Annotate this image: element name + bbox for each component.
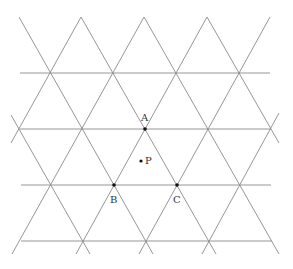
diagonal-line: [207, 17, 279, 143]
diagonal-line: [12, 17, 144, 254]
point-a-label: A: [140, 112, 149, 123]
diagonal-line: [19, 17, 153, 254]
point-p-label: P: [145, 155, 152, 166]
point-c-label: C: [173, 194, 181, 205]
point-c-dot: [175, 183, 179, 187]
triangular-lattice-diagram: A B C P: [0, 0, 293, 269]
point-b-dot: [112, 183, 116, 187]
diagonal-line: [76, 17, 207, 254]
diagonal-line: [81, 17, 216, 254]
labeled-points: A B C P: [110, 112, 181, 205]
down-left-diagonal-lines: [11, 17, 279, 254]
point-a-dot: [143, 127, 147, 131]
point-b-label: B: [110, 194, 117, 205]
diagonal-line: [11, 17, 81, 143]
down-right-diagonal-lines: [11, 17, 279, 254]
diagonal-line: [144, 17, 279, 254]
diagonal-line: [139, 17, 270, 254]
point-p-dot: [139, 159, 142, 162]
